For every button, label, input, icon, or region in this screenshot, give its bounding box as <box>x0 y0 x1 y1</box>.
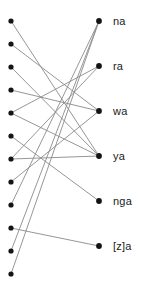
left-graph-node <box>8 87 13 92</box>
right-node-label: ra <box>113 61 123 72</box>
graph-edge <box>11 113 99 156</box>
left-graph-node <box>8 110 13 115</box>
left-graph-node <box>8 18 13 23</box>
right-graph-node <box>96 198 102 204</box>
graph-edge <box>11 156 99 159</box>
left-graph-node <box>8 156 13 161</box>
right-graph-node <box>96 153 102 159</box>
left-graph-node <box>8 271 13 276</box>
bipartite-graph-figure: narawayanga[z]a <box>0 0 145 286</box>
right-node-label: nga <box>113 196 132 207</box>
right-node-label: na <box>113 16 126 27</box>
left-graph-node <box>8 202 13 207</box>
right-graph-node <box>96 63 102 69</box>
right-node-label: wa <box>113 106 127 117</box>
right-node-label: [z]a <box>113 241 132 252</box>
right-graph-node <box>96 18 102 24</box>
left-graph-node <box>8 41 13 46</box>
right-node-label: ya <box>113 151 125 162</box>
right-node-layer <box>96 18 102 249</box>
graph-edge <box>11 21 99 274</box>
graph-edge <box>11 136 99 201</box>
left-graph-node <box>8 64 13 69</box>
graph-edge <box>11 66 99 113</box>
left-graph-node <box>8 225 13 230</box>
right-graph-node <box>96 108 102 114</box>
left-graph-node <box>8 248 13 253</box>
edge-layer <box>11 21 99 274</box>
right-graph-node <box>96 243 102 249</box>
left-node-layer <box>8 18 13 276</box>
left-graph-node <box>8 133 13 138</box>
graph-edge <box>11 21 99 205</box>
left-graph-node <box>8 179 13 184</box>
